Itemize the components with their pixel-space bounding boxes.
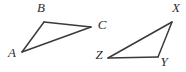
vertex-label-z: Z	[95, 47, 103, 62]
vertex-label-b: B	[37, 0, 45, 15]
edge-ca	[22, 27, 91, 52]
edge-yz	[108, 57, 158, 58]
edge-xy	[158, 22, 172, 57]
vertex-label-x: X	[171, 0, 181, 15]
figure-canvas: A B C X Y Z	[0, 0, 186, 72]
geometry-figure: A B C X Y Z	[0, 0, 186, 72]
triangle-xyz: X Y Z	[95, 0, 181, 69]
triangle-abc: A B C	[7, 0, 107, 60]
vertex-label-a: A	[7, 45, 16, 60]
vertex-label-y: Y	[160, 54, 169, 69]
edge-bc	[44, 22, 91, 27]
vertex-label-c: C	[98, 17, 107, 32]
edge-zx	[108, 22, 172, 58]
